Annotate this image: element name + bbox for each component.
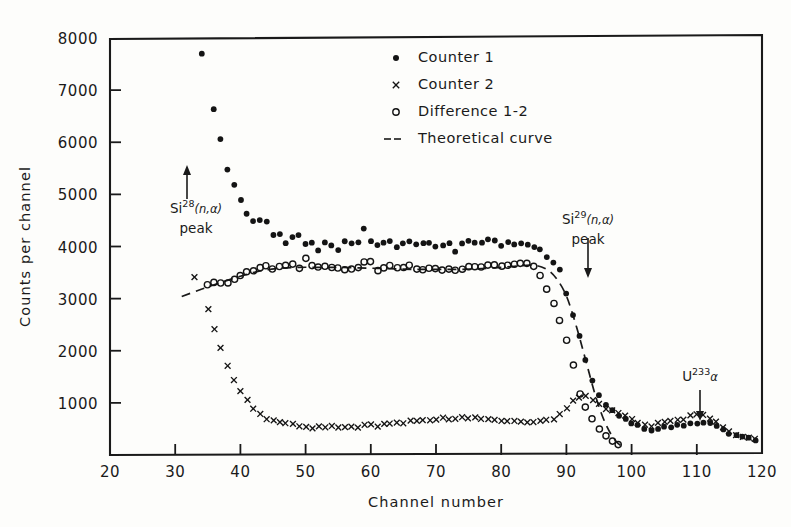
- x-tick-label: 100: [617, 463, 647, 481]
- data-point-counter2: [296, 423, 302, 429]
- data-point-counter2: [518, 419, 524, 425]
- data-point-counter1: [381, 240, 387, 246]
- data-point-counter1: [349, 240, 355, 246]
- x-tick-label: 30: [165, 463, 185, 481]
- data-point-counter1: [231, 182, 237, 188]
- data-point-counter1: [498, 243, 504, 249]
- data-point-counter1: [361, 226, 367, 232]
- data-point-counter1: [739, 434, 745, 440]
- data-point-counter2: [271, 417, 277, 423]
- data-point-difference: [322, 263, 328, 269]
- y-axis-ticks: 10002000300040005000600070008000: [58, 30, 121, 413]
- chart-legend: Counter 1Counter 2Difference 1-2Theoreti…: [384, 49, 553, 146]
- data-point-counter2: [414, 418, 420, 424]
- theoretical-curve: [182, 265, 625, 449]
- data-point-counter1: [303, 241, 309, 247]
- data-point-difference: [218, 280, 224, 286]
- data-point-difference: [537, 272, 543, 278]
- data-point-counter1: [726, 431, 732, 437]
- data-point-counter2: [250, 406, 256, 412]
- counts-per-channel-chart: 2030405060708090100110120 10002000300040…: [0, 0, 791, 527]
- data-point-counter2: [362, 422, 368, 428]
- data-point-counter1: [557, 267, 563, 273]
- data-point-counter2: [212, 326, 218, 332]
- data-point-counter1: [421, 240, 427, 246]
- data-point-counter1: [694, 421, 700, 427]
- data-point-difference: [556, 317, 562, 323]
- legend-marker-open-circle-icon: [393, 109, 399, 115]
- data-point-counter1: [589, 378, 595, 384]
- data-point-counter2: [282, 420, 288, 426]
- data-point-counter1: [674, 422, 680, 428]
- data-point-counter2: [310, 426, 316, 432]
- y-tick-label: 7000: [58, 82, 98, 100]
- data-point-counter1: [290, 234, 296, 240]
- data-point-counter1: [296, 232, 302, 238]
- data-point-counter1: [479, 240, 485, 246]
- legend-marker-filled-dot-icon: [393, 55, 399, 61]
- x-tick-label: 60: [361, 463, 381, 481]
- data-point-counter2: [427, 417, 433, 423]
- data-point-counter2: [231, 377, 237, 383]
- data-point-difference: [589, 416, 595, 422]
- x-tick-label: 110: [682, 463, 712, 481]
- data-point-difference: [381, 265, 387, 271]
- data-point-counter1: [707, 420, 713, 426]
- data-point-difference: [263, 263, 269, 269]
- data-point-difference: [290, 261, 296, 267]
- data-point-counter1: [596, 392, 602, 398]
- data-point-counter2: [420, 417, 426, 423]
- data-point-counter1: [271, 232, 277, 238]
- figure-container: 2030405060708090100110120 10002000300040…: [0, 0, 791, 527]
- data-point-counter1: [531, 244, 537, 250]
- data-point-counter1: [537, 246, 543, 252]
- x-axis-title: Channel number: [368, 494, 504, 510]
- data-point-counter1: [603, 402, 609, 408]
- counter2-series: [192, 274, 758, 441]
- data-point-difference: [276, 263, 282, 269]
- data-point-counter1: [577, 333, 583, 339]
- annotation-u233-alpha: U233α: [682, 366, 718, 384]
- data-point-counter1: [199, 51, 205, 57]
- x-tick-label: 80: [491, 463, 511, 481]
- data-point-counter1: [701, 420, 707, 426]
- data-point-counter1: [250, 218, 256, 224]
- data-point-difference: [426, 265, 432, 271]
- data-point-counter2: [205, 306, 211, 312]
- data-point-counter1: [400, 240, 406, 246]
- data-point-counter2: [590, 397, 596, 403]
- data-point-counter2: [387, 421, 393, 427]
- data-point-difference: [367, 259, 373, 265]
- data-point-counter2: [688, 413, 694, 419]
- data-point-difference: [603, 433, 609, 439]
- legend-label: Difference 1-2: [418, 103, 528, 119]
- data-point-counter1: [238, 197, 244, 203]
- x-tick-label: 40: [230, 463, 250, 481]
- x-tick-label: 120: [747, 463, 777, 481]
- data-point-counter1: [335, 247, 341, 253]
- data-point-difference: [570, 362, 576, 368]
- data-point-counter2: [316, 424, 322, 430]
- y-axis-title: Counts per channel: [17, 166, 33, 327]
- data-point-counter2: [381, 421, 387, 427]
- data-point-difference: [309, 263, 315, 269]
- data-point-counter2: [355, 425, 361, 431]
- data-point-difference: [296, 265, 302, 271]
- data-point-counter1: [426, 240, 432, 246]
- data-point-difference: [485, 262, 491, 268]
- data-point-counter1: [655, 426, 661, 432]
- data-point-counter2: [512, 418, 518, 424]
- data-point-counter2: [564, 405, 570, 411]
- data-point-difference: [204, 282, 210, 288]
- data-point-counter1: [413, 241, 419, 247]
- data-point-counter2: [452, 416, 458, 422]
- data-point-counter1: [563, 291, 569, 297]
- data-point-counter2: [329, 423, 335, 429]
- data-point-counter1: [283, 240, 289, 246]
- data-point-counter1: [485, 236, 491, 242]
- legend-item-cross: Counter 2: [393, 76, 494, 92]
- data-point-counter1: [753, 437, 759, 443]
- data-point-difference: [387, 262, 393, 268]
- data-point-difference: [472, 264, 478, 270]
- data-point-counter1: [315, 248, 321, 254]
